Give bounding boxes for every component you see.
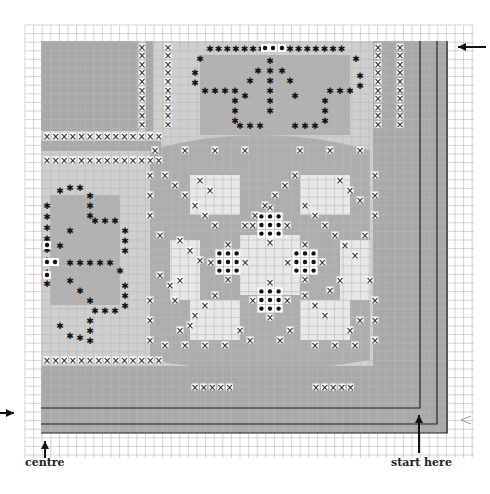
svg-text:×: × xyxy=(211,220,219,231)
svg-text:✱: ✱ xyxy=(312,44,320,54)
svg-text:×: × xyxy=(321,310,329,321)
svg-text:✱: ✱ xyxy=(301,121,309,131)
svg-text:×: × xyxy=(366,275,374,286)
svg-text:×: × xyxy=(86,355,94,366)
svg-text:×: × xyxy=(69,355,77,366)
svg-text:✱: ✱ xyxy=(76,333,84,343)
svg-text:×: × xyxy=(164,119,172,130)
svg-text:✱: ✱ xyxy=(91,306,99,316)
svg-text:×: × xyxy=(371,190,379,201)
svg-text:×: × xyxy=(137,355,145,366)
svg-text:×: × xyxy=(129,131,137,142)
svg-text:×: × xyxy=(191,382,199,393)
svg-text:✱: ✱ xyxy=(291,121,299,131)
svg-text:×: × xyxy=(329,382,337,393)
svg-text:×: × xyxy=(371,170,379,181)
svg-text:×: × xyxy=(361,230,369,241)
svg-text:×: × xyxy=(283,295,291,306)
svg-text:✱: ✱ xyxy=(321,96,329,106)
svg-text:✱: ✱ xyxy=(266,56,274,66)
svg-text:✱: ✱ xyxy=(336,86,344,96)
svg-text:✱: ✱ xyxy=(249,44,257,54)
svg-text:×: × xyxy=(69,131,77,142)
cross-stitch-chart: ××××××××××××××××××××××××××××××××××××××××… xyxy=(0,0,490,494)
svg-text:✱: ✱ xyxy=(76,183,84,193)
svg-text:×: × xyxy=(249,220,257,231)
svg-text:×: × xyxy=(103,131,111,142)
svg-text:×: × xyxy=(251,210,259,221)
svg-text:×: × xyxy=(60,131,68,142)
svg-text:×: × xyxy=(266,237,274,248)
svg-text:✱: ✱ xyxy=(121,246,129,256)
svg-text:✱: ✱ xyxy=(91,216,99,226)
svg-text:✱: ✱ xyxy=(43,201,51,211)
svg-text:×: × xyxy=(301,200,309,211)
svg-text:✱: ✱ xyxy=(241,91,249,101)
svg-text:×: × xyxy=(120,131,128,142)
svg-text:✱: ✱ xyxy=(329,44,337,54)
svg-text:×: × xyxy=(224,274,232,285)
svg-text:✱: ✱ xyxy=(241,44,249,54)
svg-text:×: × xyxy=(60,355,68,366)
svg-text:×: × xyxy=(201,210,209,221)
svg-text:×: × xyxy=(151,145,159,156)
svg-text:×: × xyxy=(371,295,379,306)
svg-text:✱: ✱ xyxy=(246,121,254,131)
svg-text:×: × xyxy=(94,155,102,166)
svg-text:×: × xyxy=(221,340,229,351)
svg-text:×: × xyxy=(236,325,244,336)
svg-text:×: × xyxy=(318,257,326,268)
svg-text:✱: ✱ xyxy=(191,68,199,78)
svg-text:×: × xyxy=(155,155,163,166)
svg-text:×: × xyxy=(208,382,216,393)
svg-text:✱: ✱ xyxy=(266,76,274,86)
svg-text:×: × xyxy=(161,170,169,181)
svg-text:×: × xyxy=(77,155,85,166)
svg-text:✱: ✱ xyxy=(246,76,254,86)
svg-text:×: × xyxy=(77,355,85,366)
svg-text:✱: ✱ xyxy=(236,121,244,131)
svg-text:×: × xyxy=(346,325,354,336)
svg-text:×: × xyxy=(69,155,77,166)
svg-text:×: × xyxy=(211,145,219,156)
svg-text:×: × xyxy=(129,355,137,366)
svg-text:×: × xyxy=(301,239,309,250)
svg-text:✱: ✱ xyxy=(86,316,94,326)
svg-text:×: × xyxy=(351,250,359,261)
svg-text:✱: ✱ xyxy=(286,76,294,86)
svg-text:✱: ✱ xyxy=(86,201,94,211)
svg-text:×: × xyxy=(146,190,154,201)
svg-text:✱: ✱ xyxy=(191,78,199,88)
svg-text:✱: ✱ xyxy=(101,216,109,226)
svg-text:×: × xyxy=(336,175,344,186)
svg-text:✱: ✱ xyxy=(121,281,129,291)
svg-text:×: × xyxy=(201,340,209,351)
svg-text:✱: ✱ xyxy=(231,96,239,106)
svg-text:×: × xyxy=(211,290,219,301)
svg-text:×: × xyxy=(261,200,269,211)
svg-text:✱: ✱ xyxy=(66,276,74,286)
svg-text:×: × xyxy=(284,257,292,268)
svg-text:×: × xyxy=(199,382,207,393)
start-here-label: start here xyxy=(391,456,452,469)
svg-text:✱: ✱ xyxy=(321,106,329,116)
svg-text:×: × xyxy=(146,295,154,306)
svg-text:×: × xyxy=(112,355,120,366)
svg-text:×: × xyxy=(146,170,154,181)
svg-text:×: × xyxy=(321,220,329,231)
svg-text:✱: ✱ xyxy=(86,326,94,336)
svg-text:✱: ✱ xyxy=(266,66,274,76)
svg-text:✱: ✱ xyxy=(266,106,274,116)
svg-text:×: × xyxy=(166,280,174,291)
svg-text:✱: ✱ xyxy=(43,223,51,233)
svg-text:×: × xyxy=(266,277,274,288)
svg-text:✱: ✱ xyxy=(96,258,104,268)
svg-text:×: × xyxy=(371,315,379,326)
svg-text:×: × xyxy=(356,315,364,326)
svg-text:✱: ✱ xyxy=(254,66,262,76)
svg-text:×: × xyxy=(94,131,102,142)
svg-text:✱: ✱ xyxy=(286,44,294,54)
svg-text:×: × xyxy=(326,145,334,156)
centre-label: centre xyxy=(25,456,65,469)
svg-text:×: × xyxy=(346,382,354,393)
